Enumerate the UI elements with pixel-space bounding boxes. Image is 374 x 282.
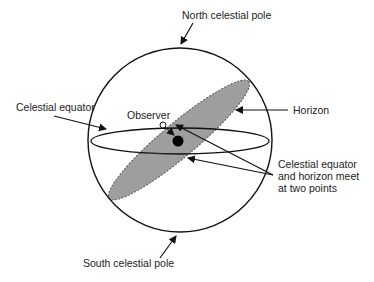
observer-label: Observer [127, 109, 170, 121]
meet-label-line2: and horizon meet [278, 170, 359, 182]
south-pole-label: South celestial pole [83, 257, 174, 269]
meet-label-line3: at two points [278, 182, 337, 194]
north-pole-label: North celestial pole [182, 9, 271, 21]
celestial-equator-label: Celestial equator [16, 101, 95, 113]
observer-point [160, 122, 166, 128]
meet-label-line1: Celestial equator [278, 158, 357, 170]
meet-arrow-2 [188, 158, 273, 175]
earth-dot [173, 136, 184, 147]
celestial-sphere-diagram [0, 0, 374, 282]
north-pole-arrow [181, 23, 193, 44]
horizon-label: Horizon [293, 104, 329, 116]
equator-arrow [54, 116, 106, 129]
south-pole-arrow [160, 236, 176, 258]
